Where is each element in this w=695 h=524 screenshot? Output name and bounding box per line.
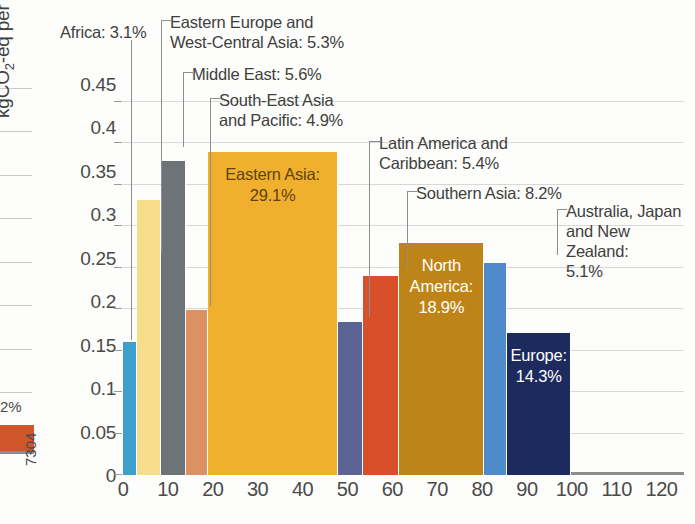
bar-north-america[interactable]: North America: 18.9%: [399, 243, 484, 475]
bar-africa[interactable]: [123, 342, 137, 475]
leader-elbow-sea-pacific: [210, 98, 220, 99]
bar-inner-label: Europe: 14.3%: [507, 345, 570, 387]
left-gridline-stub: [0, 262, 32, 263]
y-tick-mark: [114, 474, 122, 475]
bar-middle-east[interactable]: [161, 161, 186, 475]
leader-elbow-ajnz: [557, 209, 567, 210]
bar-eastern-asia[interactable]: Eastern Asia: 29.1%: [208, 152, 339, 475]
leader-line-southern-asia: [407, 191, 408, 269]
y-axis-title: kgCO2-eq per USD GDPPPP: [0, 0, 17, 118]
y-tick-mark: [114, 184, 122, 185]
left-gridline-stub: [0, 349, 32, 350]
bar-australia-japan-and-new-zealand[interactable]: [484, 263, 507, 475]
bar-inner-label: Eastern Asia: 29.1%: [208, 164, 338, 206]
y-tick-mark: [114, 142, 122, 143]
y-tick-mark: [114, 391, 122, 392]
y-axis-title-text: kgCO2-eq per USD GDPPPP: [0, 0, 13, 118]
leader-line-africa: [131, 40, 132, 340]
chart-canvas: 2% 7304 kgCO2-eq per USD GDPPPP 0.45 0.4…: [0, 0, 695, 524]
callout-middle-east: Middle East: 5.6%: [192, 64, 322, 84]
y-tick-label: 0.3: [50, 204, 116, 226]
callout-australia-japan-new-zealand: Australia, Japan and New Zealand: 5.1%: [566, 201, 695, 281]
leader-line-ajnz: [557, 209, 558, 255]
left-gridline-stub: [0, 175, 32, 176]
gridline: [123, 101, 684, 102]
y-tick-mark: [114, 225, 122, 226]
y-tick-label: 0.25: [50, 248, 116, 270]
y-tick-label: 0.4: [50, 117, 116, 139]
bar-eastern-europe-and-west-central-asia[interactable]: [137, 200, 161, 475]
left-fragment-rotated-text: 7304: [22, 433, 39, 466]
y-tick-label: 0.35: [50, 161, 116, 183]
leader-elbow-latam: [369, 141, 380, 142]
leader-elbow-southern-asia: [407, 191, 417, 192]
leader-line-latam: [369, 141, 370, 317]
y-tick-mark: [114, 433, 122, 434]
leader-elbow-eeca: [161, 20, 171, 21]
callout-africa: Africa: 3.1%: [60, 22, 147, 42]
callout-eastern-europe-west-central-asia: Eastern Europe and West-Central Asia: 5.…: [170, 12, 344, 52]
bar-south-east-asia-and-pacific[interactable]: [186, 310, 208, 475]
callout-south-east-asia-pacific: South-East Asia and Pacific: 4.9%: [219, 90, 343, 130]
left-gridline-stub: [0, 131, 32, 132]
y-tick-label: 0.05: [50, 422, 116, 444]
y-tick-mark: [114, 101, 122, 102]
bar-inner-label: North America: 18.9%: [399, 255, 483, 318]
leader-elbow-middle-east: [183, 72, 193, 73]
left-gridline-stub: [0, 305, 32, 306]
x-tick-label: 120: [636, 478, 688, 501]
y-tick-label: 0.15: [50, 335, 116, 357]
bar-europe[interactable]: Europe: 14.3%: [507, 333, 571, 475]
bar-latin-america-and-caribbean[interactable]: [338, 322, 362, 475]
leader-line-eeca: [161, 20, 162, 252]
y-tick-label: 0.45: [50, 74, 116, 96]
left-gridline-stub: [0, 218, 32, 219]
callout-southern-asia: Southern Asia: 8.2%: [416, 183, 562, 203]
y-tick-mark: [114, 267, 122, 268]
left-fragment-percent: 2%: [0, 398, 21, 415]
y-tick-label: 0.2: [50, 291, 116, 313]
y-tick-mark: [114, 308, 122, 309]
x-axis-labels: 0102030405060708090100110120: [123, 478, 695, 518]
callout-latin-america-caribbean: Latin America and Caribbean: 5.4%: [379, 133, 508, 173]
y-tick-label: 0.1: [50, 378, 116, 400]
leader-line-sea-pacific: [210, 98, 211, 306]
leader-line-middle-east: [183, 72, 184, 147]
left-gridline-stub: [0, 392, 32, 393]
y-tick-mark: [114, 350, 122, 351]
